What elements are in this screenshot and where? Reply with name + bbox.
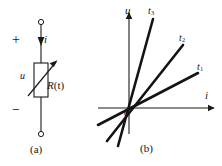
curve-label-t2-sub: 2 (182, 36, 185, 43)
ui-characteristic-plot (98, 0, 222, 166)
curve-label-t1: t1 (197, 62, 203, 73)
figure-container: + − i u R(t) (a) u i o t3 (0, 0, 222, 166)
u-axis-label: u (125, 5, 131, 16)
resistor-label-arg: (t) (54, 79, 64, 91)
panel-a-circuit: + − i u R(t) (a) (0, 0, 100, 166)
resistor-label: R(t) (47, 80, 64, 91)
panel-b-chart: u i o t3 t2 t1 (b) (98, 0, 222, 166)
i-axis-label: i (205, 90, 208, 101)
terminal-polarity-plus: + (12, 33, 20, 47)
top-terminal-node (38, 19, 43, 24)
curve-label-t3-sub: 3 (151, 9, 154, 16)
variable-arrow-head-icon (50, 60, 58, 67)
resistor-label-base: R (47, 79, 54, 91)
curve-label-t2: t2 (179, 33, 185, 44)
terminal-polarity-minus: − (12, 103, 20, 117)
circuit-current-label: i (44, 34, 47, 45)
circuit-voltage-label: u (20, 71, 25, 81)
origin-label: o (124, 108, 129, 118)
curve-label-t1-sub: 1 (200, 65, 203, 72)
curve-t3 (118, 19, 153, 146)
bottom-terminal-node (38, 131, 43, 136)
panel-b-caption: (b) (140, 143, 153, 154)
curve-label-t3: t3 (148, 6, 154, 17)
panel-a-caption: (a) (30, 144, 42, 155)
curve-t1 (98, 73, 198, 125)
curve-t2 (107, 45, 183, 141)
